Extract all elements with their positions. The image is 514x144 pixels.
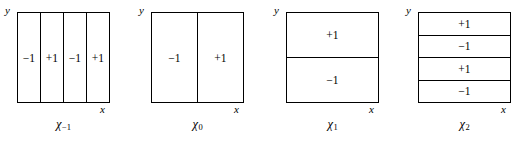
plot-box: −1 +1 [151, 12, 244, 103]
plot-box: −1 +1 −1 +1 [17, 12, 110, 103]
panel-chi-1: y +1 −1 x χ1 [269, 0, 399, 144]
x-axis-label: x [501, 104, 506, 115]
cell: +1 [419, 57, 510, 80]
panel-caption: χ0 [134, 118, 261, 132]
x-axis-label: x [100, 104, 105, 115]
y-axis-label: y [139, 5, 144, 16]
cell: +1 [419, 13, 510, 35]
panel-caption: χ1 [269, 118, 396, 132]
caption-symbol: χ [56, 117, 62, 131]
caption-subscript: 1 [333, 122, 337, 132]
plot-box: +1 −1 +1 −1 [418, 12, 511, 103]
cell: −1 [18, 13, 40, 102]
y-axis-label: y [274, 5, 279, 16]
basis-function-figure: y −1 +1 −1 +1 x χ−1 y −1 +1 x χ0 y +1 −1… [0, 0, 514, 144]
cell: +1 [197, 13, 243, 102]
cell: +1 [287, 13, 378, 57]
caption-subscript: 0 [198, 122, 202, 132]
cell: −1 [419, 35, 510, 58]
panel-caption: χ−1 [0, 118, 127, 132]
cell: −1 [152, 13, 197, 102]
caption-subscript: −1 [62, 122, 71, 132]
cell: +1 [86, 13, 109, 102]
caption-subscript: 2 [465, 122, 469, 132]
panel-chi-minus-1: y −1 +1 −1 +1 x χ−1 [0, 0, 130, 144]
cell: −1 [419, 80, 510, 103]
y-axis-label: y [406, 5, 411, 16]
panel-chi-0: y −1 +1 x χ0 [134, 0, 264, 144]
cell: −1 [287, 57, 378, 102]
panel-chi-2: y +1 −1 +1 −1 x χ2 [401, 0, 514, 144]
plot-box: +1 −1 [286, 12, 379, 103]
x-axis-label: x [234, 104, 239, 115]
cell: +1 [40, 13, 63, 102]
y-axis-label: y [5, 5, 10, 16]
cell: −1 [63, 13, 86, 102]
panel-caption: χ2 [401, 118, 514, 132]
x-axis-label: x [369, 104, 374, 115]
